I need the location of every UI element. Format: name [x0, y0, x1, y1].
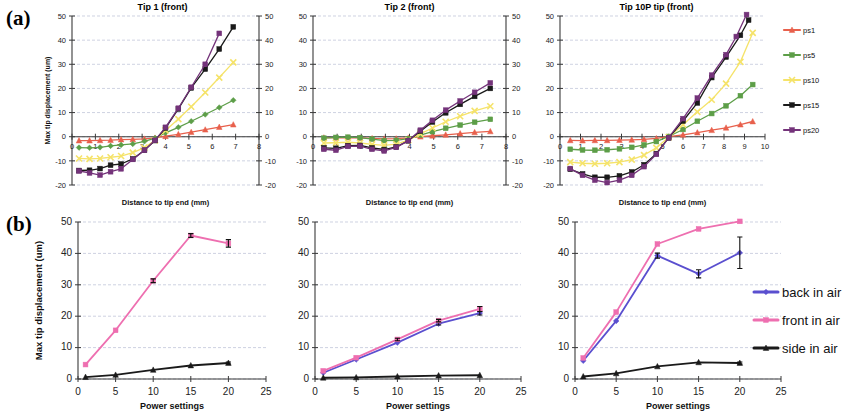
data-point-ps10: [443, 119, 449, 125]
x-axis-title: Distance to tip end (mm): [122, 198, 210, 207]
data-point-ps5: [370, 137, 375, 142]
y-tick-label-mirror: -20: [512, 181, 523, 190]
x-tick-label: 0: [312, 386, 318, 397]
y-tick-label-mirror: -10: [512, 157, 523, 166]
x-tick-label: 0: [70, 142, 74, 151]
x-axis-title: Distance to tip end (mm): [619, 198, 707, 207]
series-path: [323, 375, 480, 378]
series-path: [570, 122, 752, 141]
data-point-front-in-air: [113, 328, 118, 333]
series-ps20: [568, 12, 749, 185]
y-tick-label: 50: [299, 12, 307, 21]
y-tick-label: -10: [543, 157, 554, 166]
y-tick-label: 0: [563, 373, 569, 384]
x-tick-label: 5: [432, 142, 436, 151]
data-point-ps5: [488, 117, 493, 122]
data-point-ps20: [87, 171, 92, 176]
y-tick-label: 40: [558, 247, 570, 258]
x-tick-label: 5: [187, 142, 191, 151]
x-tick-label: 15: [693, 386, 705, 397]
y-tick-label: 20: [298, 310, 310, 321]
legend-orientation-svg: back in airfront in airside in air: [752, 276, 851, 366]
legend-item-ps5[interactable]: ps5: [784, 51, 815, 60]
x-tick-label: 7: [701, 142, 705, 151]
legend-item-side-in-air[interactable]: side in air: [754, 341, 838, 356]
series-back-in-air: [320, 310, 482, 375]
legend-item-ps15[interactable]: ps15: [784, 101, 819, 110]
data-point-ps5: [346, 135, 351, 140]
y-tick-label: -10: [55, 157, 66, 166]
x-tick-label: 25: [260, 386, 272, 397]
legend-item-ps10[interactable]: ps10: [784, 76, 819, 85]
y-tick-label: -20: [543, 181, 554, 190]
data-point-ps10: [216, 75, 222, 81]
gridlines: [575, 222, 781, 379]
figure-container: (a) (b) Tip 1 (front) -20-1001020304050-…: [0, 0, 851, 411]
y-tick-label-mirror: 20: [265, 84, 273, 93]
data-point-ps20: [77, 169, 82, 174]
series-path: [86, 236, 229, 365]
legend-item-ps20[interactable]: ps20: [784, 126, 819, 135]
y-tick-label: 30: [299, 60, 307, 69]
data-point-ps20: [119, 166, 124, 171]
data-point-ps20: [488, 80, 493, 85]
data-point-front-in-air: [354, 355, 359, 360]
x-tick-label: 10: [392, 386, 404, 397]
chart-panel-tip10p-front: Tip 10P tip (front) -20-1001020304050012…: [534, 2, 779, 207]
y-tick-label: 0: [62, 132, 66, 141]
data-point-ps10: [709, 97, 715, 103]
legend-item-back-in-air[interactable]: back in air: [754, 285, 842, 300]
x-tick-label: 9: [742, 142, 746, 151]
y-tick-label-mirror: 30: [512, 60, 520, 69]
legend-item-front-in-air[interactable]: front in air: [754, 313, 840, 328]
y-tick-label: 20: [558, 310, 570, 321]
y-tick-label: 10: [546, 108, 554, 117]
data-point-ps20: [642, 164, 647, 169]
data-point-ps20: [370, 147, 375, 152]
data-point-ps5: [709, 111, 714, 116]
data-point-ps10: [175, 116, 181, 122]
data-point-ps20: [406, 138, 411, 143]
legend-power-settings-svg: ps1ps5ps10ps15ps20: [782, 20, 851, 150]
data-point-ps5: [695, 119, 700, 124]
y-tick-label: 0: [66, 373, 72, 384]
y-tick-label: -10: [296, 157, 307, 166]
x-axis-title: Distance to tip end (mm): [366, 198, 454, 207]
data-point-ps1: [750, 119, 756, 124]
legend-orientation: back in airfront in airside in air: [752, 276, 851, 366]
gridlines: [315, 222, 521, 379]
x-axis-title: Power settings: [386, 401, 450, 411]
data-point-ps10: [723, 81, 729, 87]
y-tick-label: 20: [546, 84, 554, 93]
chart-svg-a1: -20-1001020304050-20-1001020304050012345…: [40, 2, 285, 207]
data-point-front-in-air: [321, 368, 326, 373]
data-point-ps5: [216, 105, 222, 111]
x-tick-label: 20: [734, 386, 746, 397]
y-tick-label: -20: [296, 181, 307, 190]
x-tick-label: 25: [775, 386, 787, 397]
y-tick-label: 30: [58, 60, 66, 69]
data-point-ps20: [163, 125, 168, 130]
y-tick-label-mirror: 10: [265, 108, 273, 117]
series-path: [570, 15, 746, 183]
y-tick-label: 20: [61, 310, 73, 321]
series-side-in-air: [83, 360, 231, 380]
data-point-ps5: [629, 145, 634, 150]
data-point-front-in-air: [737, 219, 742, 224]
data-point-front-in-air: [614, 310, 619, 315]
series-path: [79, 33, 219, 175]
data-point-ps20: [695, 96, 700, 101]
gridlines: [313, 16, 506, 185]
data-point-ps5: [580, 148, 585, 153]
legend-item-ps1[interactable]: ps1: [784, 26, 815, 35]
data-point-ps5: [681, 127, 686, 132]
y-tick-label-mirror: 50: [512, 12, 520, 21]
series-ps15: [568, 18, 751, 180]
series-path: [86, 363, 229, 377]
y-tick-label: 50: [558, 216, 570, 227]
data-point-ps20: [130, 157, 135, 162]
data-point-ps5: [568, 147, 573, 152]
data-point-ps10: [188, 104, 194, 110]
x-tick-label: 5: [353, 386, 359, 397]
legend-marker: [790, 53, 795, 58]
